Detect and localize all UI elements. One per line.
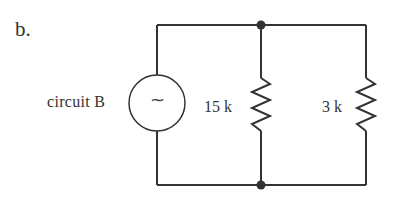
resistor-15k-label: 15 k [204, 98, 232, 116]
resistor-3k-label: 3 k [322, 98, 342, 116]
bottom-junction-node-icon [257, 181, 266, 190]
resistor-3k-icon [357, 78, 375, 131]
source-label: circuit B [47, 93, 105, 111]
circuit-diagram: b. circuit B ~ 15 k 3 k [0, 0, 397, 197]
top-junction-node-icon [257, 21, 266, 30]
tilde-icon: ~ [150, 89, 165, 110]
part-label: b. [15, 17, 31, 42]
resistor-15k-icon [252, 78, 270, 131]
